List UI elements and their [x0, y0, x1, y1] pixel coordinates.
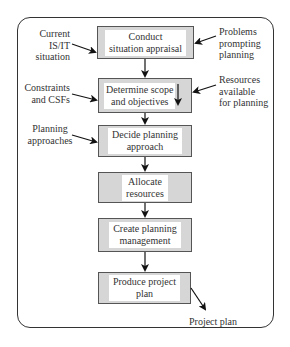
- input-current-situation: Current IS/IT situation: [20, 28, 70, 63]
- step-label: Produce project plan: [109, 275, 180, 301]
- input-label-line: situation: [20, 51, 70, 63]
- step-label-line: Conduct: [109, 31, 182, 43]
- input-resources-available: Resources available for planning: [219, 74, 289, 109]
- step-label: Conduct situation appraisal: [105, 30, 186, 56]
- input-label-line: planning: [219, 49, 289, 61]
- input-label-line: Constraints: [14, 82, 70, 94]
- step-label-line: Produce project: [113, 276, 176, 288]
- input-label-line: available: [219, 86, 289, 98]
- input-planning-approaches: Planning approaches: [25, 123, 75, 146]
- step-label-line: situation appraisal: [109, 43, 182, 55]
- step-label-line: Allocate: [126, 176, 164, 188]
- step-label: Determine scope and objectives: [104, 83, 175, 109]
- step-label-line: Determine scope: [106, 84, 173, 96]
- input-constraints-csfs: Constraints and CSFs: [14, 82, 70, 105]
- step-decide-planning-approach: Decide planning approach: [98, 125, 192, 157]
- step-label-line: Decide planning: [112, 129, 178, 141]
- input-label-line: approaches: [25, 135, 75, 147]
- step-label-line: resources: [126, 188, 164, 200]
- input-label-line: Current: [20, 28, 70, 40]
- step-conduct-situation-appraisal: Conduct situation appraisal: [97, 26, 194, 59]
- step-produce-project-plan: Produce project plan: [98, 272, 191, 304]
- input-label-line: for planning: [219, 97, 289, 109]
- step-label-line: plan: [113, 288, 176, 300]
- output-project-plan: Project plan: [189, 316, 269, 328]
- input-label-line: Problems: [219, 26, 289, 38]
- step-label-line: management: [113, 235, 177, 247]
- step-label-line: approach: [112, 141, 178, 153]
- output-label: Project plan: [189, 316, 237, 327]
- step-label: Create planning management: [109, 222, 181, 248]
- input-label-line: prompting: [219, 38, 289, 50]
- step-label: Allocate resources: [122, 175, 168, 201]
- input-label-line: Resources: [219, 74, 289, 86]
- step-label: Decide planning approach: [108, 128, 182, 154]
- step-create-planning-management: Create planning management: [98, 218, 192, 252]
- input-label-line: IS/IT: [20, 40, 70, 52]
- step-allocate-resources: Allocate resources: [98, 172, 192, 203]
- input-problems-prompting-planning: Problems prompting planning: [219, 26, 289, 61]
- input-label-line: Planning: [25, 123, 75, 135]
- step-label-line: and objectives: [106, 96, 173, 108]
- step-determine-scope: Determine scope and objectives: [98, 78, 192, 113]
- input-label-line: and CSFs: [14, 94, 70, 106]
- step-label-line: Create planning: [113, 223, 177, 235]
